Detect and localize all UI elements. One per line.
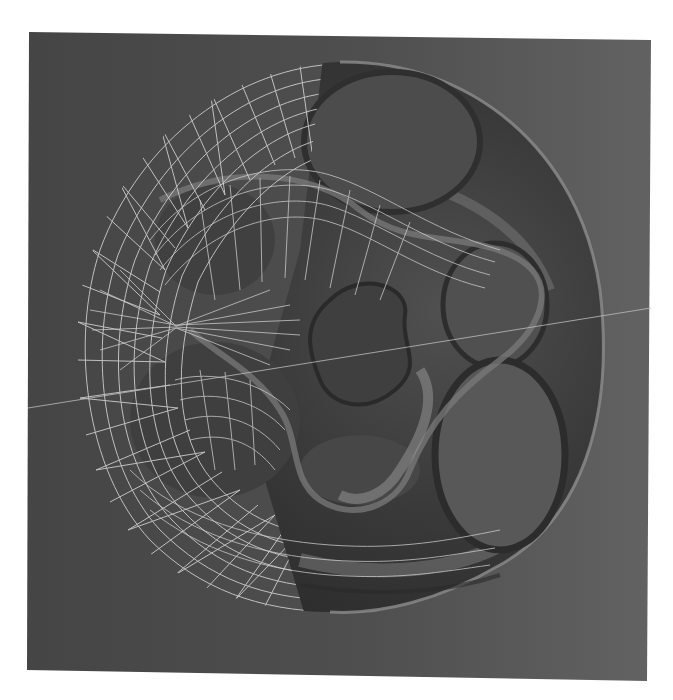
hole-bottom-right: [435, 360, 565, 550]
render-viewport: [0, 0, 673, 700]
render-stage: 3D rendering of a minimal surface, left …: [0, 0, 673, 700]
hole-center: [310, 284, 410, 405]
